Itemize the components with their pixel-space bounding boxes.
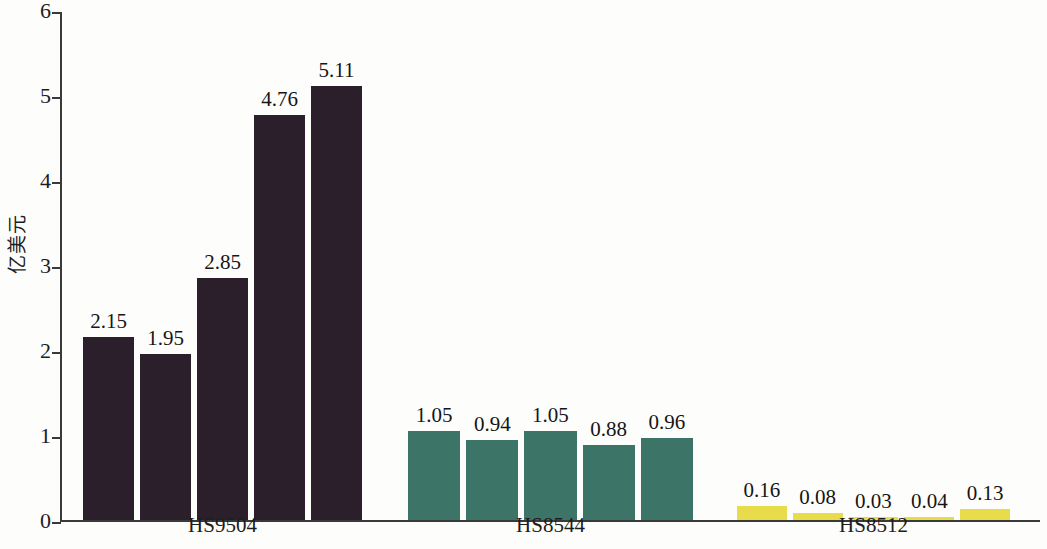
bar-value-label: 0.88 [590, 419, 627, 440]
y-tick-mark [52, 12, 61, 14]
bar-value-label: 0.96 [649, 412, 686, 433]
y-axis-title: 亿美元 [2, 199, 29, 289]
bar-value-label: 0.03 [855, 491, 892, 512]
group-label-hs9504: HS9504 [83, 514, 362, 536]
y-tick-label: 3 [40, 255, 51, 277]
bar: 1.95 [140, 354, 191, 520]
bar-value-label: 0.08 [799, 487, 836, 508]
bar: 4.76 [254, 115, 305, 520]
bar: 1.05 [408, 431, 460, 520]
bar-value-label: 4.76 [261, 89, 298, 110]
bar-value-label: 1.95 [147, 328, 184, 349]
y-tick-mark [52, 267, 61, 269]
bar: 5.11 [311, 86, 362, 520]
y-tick-mark [52, 437, 61, 439]
bar-value-label: 2.85 [204, 252, 241, 273]
y-tick-label: 1 [40, 425, 51, 447]
y-tick-mark [52, 522, 61, 524]
bar: 1.05 [524, 431, 576, 520]
y-tick-label: 0 [40, 510, 51, 532]
y-tick-label: 5 [40, 85, 51, 107]
bar-value-label: 0.04 [911, 491, 948, 512]
group-label-hs8544: HS8544 [408, 514, 693, 536]
plot-area: 0123456 2.151.952.854.765.111.050.941.05… [60, 12, 1040, 522]
y-tick-label: 2 [40, 340, 51, 362]
y-tick-label: 4 [40, 170, 51, 192]
bar-value-label: 0.94 [474, 414, 511, 435]
bar-value-label: 2.15 [90, 311, 127, 332]
group-label-hs8512: HS8512 [737, 514, 1010, 536]
bar: 0.94 [466, 440, 518, 520]
bar: 0.88 [583, 445, 635, 520]
bar-chart: 亿美元 0123456 2.151.952.854.765.111.050.94… [0, 0, 1047, 549]
bar: 0.96 [641, 438, 693, 520]
bar: 2.85 [197, 278, 248, 520]
bar: 2.15 [83, 337, 134, 520]
bar-value-label: 0.16 [744, 480, 781, 501]
y-tick-mark [52, 182, 61, 184]
bar-value-label: 1.05 [416, 405, 453, 426]
y-tick-mark [52, 352, 61, 354]
bar-value-label: 0.13 [967, 483, 1004, 504]
bar-value-label: 1.05 [532, 405, 569, 426]
bar-value-label: 5.11 [319, 60, 355, 81]
y-tick-label: 6 [40, 0, 51, 22]
y-tick-mark [52, 97, 61, 99]
